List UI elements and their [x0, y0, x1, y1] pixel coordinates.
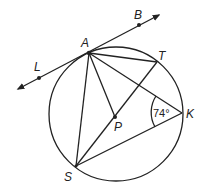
label-a: A — [80, 36, 89, 50]
point-a — [87, 51, 91, 55]
label-b: B — [134, 8, 142, 22]
segment-as — [76, 53, 89, 166]
label-k: K — [186, 107, 195, 121]
label-p: P — [114, 120, 122, 134]
label-l: L — [34, 60, 41, 74]
point-s — [74, 164, 77, 167]
segment-ap — [89, 53, 115, 117]
label-s: S — [64, 170, 72, 184]
circle-geometry-diagram: A B L T K P S 74° — [0, 0, 203, 195]
segment-ak — [89, 53, 182, 113]
point-b — [137, 23, 141, 27]
point-p — [113, 115, 117, 119]
segment-ts — [76, 62, 157, 166]
label-t: T — [158, 49, 167, 63]
point-l — [37, 76, 41, 80]
angle-label-k: 74° — [153, 107, 170, 119]
